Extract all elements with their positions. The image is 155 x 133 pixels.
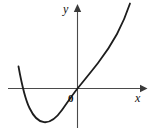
y-axis-arrow-icon <box>74 4 81 12</box>
graph-figure: y x 0 <box>0 0 155 133</box>
y-axis-label: y <box>63 3 68 15</box>
x-axis-label: x <box>135 92 140 104</box>
origin-label: 0 <box>68 93 74 104</box>
graph-canvas <box>0 0 155 133</box>
function-curve <box>19 4 131 123</box>
x-axis-arrow-icon <box>140 85 148 92</box>
